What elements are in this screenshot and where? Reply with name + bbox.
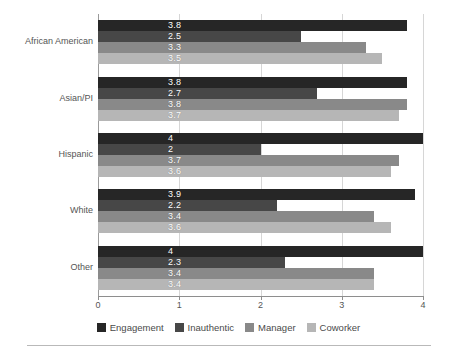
bar-value-label: 2.7 [168, 88, 181, 99]
x-axis-tick-labels: 01234 [98, 300, 424, 314]
category-label: African American [1, 36, 93, 46]
legend-swatch-icon [245, 323, 254, 332]
bar-row: 3.4 [98, 211, 423, 222]
bar-row: 2.2 [98, 200, 423, 211]
bar[interactable] [98, 189, 415, 200]
bar-value-label: 3.4 [168, 279, 181, 290]
bar-value-label: 3.8 [168, 99, 181, 110]
x-axis-tick-label: 1 [177, 300, 182, 310]
bar-value-label: 3.5 [168, 53, 181, 64]
bottom-divider [27, 345, 431, 346]
bar-row: 3.6 [98, 166, 423, 177]
legend-label: Inauthentic [188, 322, 234, 333]
bar-group: 3.92.23.43.6 [98, 189, 423, 233]
bar[interactable] [98, 211, 374, 222]
x-axis-tick-label: 3 [339, 300, 344, 310]
bar-row: 3.9 [98, 189, 423, 200]
bar-value-label: 3.6 [168, 222, 181, 233]
bar[interactable] [98, 222, 391, 233]
bar-value-label: 2 [168, 144, 173, 155]
bar-value-label: 3.8 [168, 77, 181, 88]
bar[interactable] [98, 42, 366, 53]
bar-row: 3.8 [98, 77, 423, 88]
bar-value-label: 3.8 [168, 20, 181, 31]
bar-value-label: 3.3 [168, 42, 181, 53]
x-axis-tick-label: 0 [95, 300, 100, 310]
bar-row: 4 [98, 246, 423, 257]
bar[interactable] [98, 246, 423, 257]
bar[interactable] [98, 133, 423, 144]
bar[interactable] [98, 200, 277, 211]
bar-value-label: 4 [168, 246, 173, 257]
legend-item[interactable]: Manager [245, 322, 296, 333]
bar-value-label: 2.3 [168, 257, 181, 268]
legend-label: Coworker [320, 322, 361, 333]
gridline [423, 14, 424, 296]
bar-value-label: 4 [168, 133, 173, 144]
bar-value-label: 3.7 [168, 155, 181, 166]
bar-group: 42.33.43.4 [98, 246, 423, 290]
legend-label: Manager [258, 322, 296, 333]
bar[interactable] [98, 53, 382, 64]
bar[interactable] [98, 77, 407, 88]
bar-value-label: 3.4 [168, 211, 181, 222]
bar[interactable] [98, 31, 301, 42]
bar[interactable] [98, 144, 261, 155]
legend-swatch-icon [97, 323, 106, 332]
legend-swatch-icon [307, 323, 316, 332]
legend-item[interactable]: Coworker [307, 322, 361, 333]
x-axis-tick-label: 2 [258, 300, 263, 310]
bar-group: 3.82.73.83.7 [98, 77, 423, 121]
bar-value-label: 3.7 [168, 110, 181, 121]
bar-row: 3.7 [98, 110, 423, 121]
bar-row: 4 [98, 133, 423, 144]
bar-row: 2.5 [98, 31, 423, 42]
bar[interactable] [98, 166, 391, 177]
bar-value-label: 2.5 [168, 31, 181, 42]
legend-item[interactable]: Engagement [97, 322, 164, 333]
category-label: White [1, 205, 93, 215]
x-axis-line [98, 296, 424, 297]
bar-value-label: 2.2 [168, 200, 181, 211]
legend-swatch-icon [175, 323, 184, 332]
legend-item[interactable]: Inauthentic [175, 322, 234, 333]
bar-row: 3.5 [98, 53, 423, 64]
bar[interactable] [98, 88, 317, 99]
bar-row: 3.8 [98, 99, 423, 110]
bar-value-label: 3.9 [168, 189, 181, 200]
legend-label: Engagement [110, 322, 164, 333]
bar[interactable] [98, 257, 285, 268]
category-label: Other [1, 262, 93, 272]
bar-row: 3.4 [98, 268, 423, 279]
grouped-bar-chart: African AmericanAsian/PIHispanicWhiteOth… [0, 0, 457, 358]
category-label: Hispanic [1, 149, 93, 159]
bar-row: 3.6 [98, 222, 423, 233]
bar-row: 3.8 [98, 20, 423, 31]
category-label: Asian/PI [1, 93, 93, 103]
plot-area: 3.82.53.33.53.82.73.83.7423.73.63.92.23.… [98, 14, 423, 296]
category-axis-labels: African AmericanAsian/PIHispanicWhiteOth… [0, 14, 93, 296]
bar[interactable] [98, 99, 407, 110]
bar-group: 3.82.53.33.5 [98, 20, 423, 64]
bar[interactable] [98, 110, 399, 121]
bar[interactable] [98, 268, 374, 279]
bar-row: 2 [98, 144, 423, 155]
bar-row: 3.7 [98, 155, 423, 166]
bar-row: 3.4 [98, 279, 423, 290]
bar-value-label: 3.4 [168, 268, 181, 279]
bar[interactable] [98, 20, 407, 31]
bar-row: 3.3 [98, 42, 423, 53]
bar-row: 2.7 [98, 88, 423, 99]
bar[interactable] [98, 155, 399, 166]
bar-value-label: 3.6 [168, 166, 181, 177]
bar-group: 423.73.6 [98, 133, 423, 177]
bar-row: 2.3 [98, 257, 423, 268]
bar[interactable] [98, 279, 374, 290]
x-axis-tick-label: 4 [420, 300, 425, 310]
chart-legend: EngagementInauthenticManagerCoworker [0, 322, 457, 333]
